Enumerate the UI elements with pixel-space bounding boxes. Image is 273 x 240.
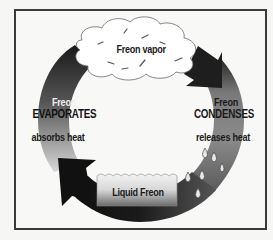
liquid-freon-label: Liquid Freon: [107, 186, 169, 198]
condenses-line2: CONDENSES: [193, 108, 255, 120]
freon-vapor-label: Freon vapor: [116, 43, 165, 55]
evaporates-line2: EVAPORATES: [32, 108, 91, 120]
condenses-line3: releases heat: [191, 131, 255, 143]
evaporates-line3: absorbs heat: [28, 131, 87, 143]
